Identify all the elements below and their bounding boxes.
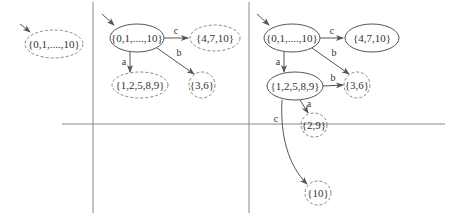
state-label: {3,6} [345, 79, 369, 91]
state-node-2-9: {2,9} [301, 113, 327, 137]
edge-label: c [174, 25, 179, 36]
state-label: {0,1,....,10} [28, 38, 80, 50]
edge-label: a [307, 98, 312, 109]
edge-a: a [122, 52, 130, 72]
edge-label: a [122, 56, 127, 67]
state-label: {10} [307, 187, 329, 199]
state-node-root: {0,1,....,10} [264, 24, 320, 52]
state-label: {4,7,10} [353, 32, 391, 44]
state-node-4-7-10: {4,7,10} [190, 25, 240, 51]
panel-1: {0,1,....,10} [20, 24, 83, 58]
edge-b-root: b [312, 47, 349, 74]
state-label: {3,6} [190, 79, 214, 91]
state-label: {4,7,10} [196, 32, 234, 44]
initial-arrow [20, 24, 30, 32]
state-node-root: {0,1,....,10} [25, 30, 83, 58]
edge-label: b [177, 47, 182, 58]
edge-b-12589: b [323, 72, 343, 86]
state-label: {1,2,5,8,9} [270, 80, 319, 92]
edge-label: b [332, 47, 337, 58]
state-node-1-2-5-8-9: {1,2,5,8,9} [267, 72, 323, 100]
state-node-3-6: {3,6} [344, 72, 370, 98]
panel-3: {0,1,....,10} {4,7,10} {1,2,5,8,9} {3,6}… [257, 14, 399, 205]
state-label: {1,2,5,8,9} [115, 79, 164, 91]
state-label: {2,9} [302, 119, 326, 131]
automaton-diagram: {0,1,....,10} {0,1,....,10} {4,7,10} {1,… [0, 0, 460, 222]
edge-label: b [331, 72, 336, 83]
edge-b: b [157, 47, 194, 74]
edge-label: c [330, 25, 335, 36]
state-label: {0,1,....,10} [111, 32, 163, 44]
state-node-10: {10} [305, 181, 331, 205]
state-label: {0,1,....,10} [266, 32, 318, 44]
edge-c: c [164, 25, 188, 38]
initial-arrow [102, 14, 114, 25]
edge-a-12589: a [300, 98, 312, 113]
edge-label: a [276, 56, 281, 67]
state-node-3-6: {3,6} [189, 72, 215, 98]
state-node-1-2-5-8-9: {1,2,5,8,9} [112, 72, 168, 98]
edge-c-12589: c [274, 100, 307, 184]
state-node-4-7-10: {4,7,10} [345, 24, 399, 52]
initial-arrow [257, 14, 269, 25]
edge-c-root: c [320, 25, 343, 38]
state-node-root: {0,1,....,10} [110, 24, 164, 52]
edge-label: c [274, 113, 279, 124]
edge-a-root: a [276, 52, 284, 72]
panel-2: {0,1,....,10} {4,7,10} {1,2,5,8,9} {3,6}… [102, 14, 240, 98]
